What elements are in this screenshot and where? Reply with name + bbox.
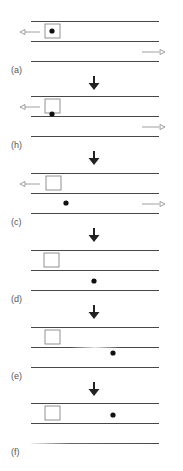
down-arrow-shaft <box>93 228 95 236</box>
channel-line <box>31 61 159 62</box>
panel-label: (c) <box>11 217 22 227</box>
panel-label: (h) <box>11 140 22 150</box>
dot-particle <box>49 28 54 33</box>
down-arrow-shaft <box>93 151 95 159</box>
channel-line <box>31 41 159 42</box>
panel-label: (e) <box>11 371 22 381</box>
channel-line <box>31 136 159 137</box>
dot-particle <box>91 278 96 283</box>
dot-particle <box>63 200 68 205</box>
down-arrow-shaft <box>93 76 95 84</box>
dot-particle <box>110 412 115 417</box>
left-arrow-icon <box>20 105 25 110</box>
down-arrow-icon <box>89 312 100 319</box>
channel-line <box>31 290 159 291</box>
channel-line <box>31 347 159 348</box>
channel-line <box>31 327 159 328</box>
left-arrow-icon <box>20 182 25 187</box>
panel-label: (f) <box>11 447 20 457</box>
channel-line <box>31 250 159 251</box>
right-arrow-icon <box>160 202 165 207</box>
down-arrow-icon <box>89 158 100 165</box>
channel-line <box>31 367 159 368</box>
channel-line <box>31 443 159 444</box>
left-arrow-icon <box>20 30 25 35</box>
square-marker <box>44 253 59 267</box>
channel-line <box>31 270 159 271</box>
diagram-canvas <box>0 0 183 471</box>
down-arrow-shaft <box>93 382 95 390</box>
right-arrow-icon <box>160 50 165 55</box>
square-marker <box>45 330 60 344</box>
square-marker <box>45 406 60 420</box>
channel-line <box>31 213 159 214</box>
dot-particle <box>49 111 54 116</box>
down-arrow-icon <box>89 389 100 396</box>
channel-line <box>31 21 159 22</box>
panel-label: (a) <box>11 65 22 75</box>
channel-line <box>31 116 159 117</box>
square-marker <box>45 99 60 113</box>
channel-line <box>31 423 159 424</box>
channel-line <box>31 96 159 97</box>
channel-line <box>31 173 159 174</box>
channel-line <box>31 403 159 404</box>
down-arrow-icon <box>89 235 100 242</box>
panel-label: (d) <box>11 294 22 304</box>
square-marker <box>46 176 61 190</box>
down-arrow-shaft <box>93 305 95 313</box>
channel-line <box>31 193 159 194</box>
dot-particle <box>110 350 115 355</box>
right-arrow-icon <box>160 125 165 130</box>
down-arrow-icon <box>89 83 100 90</box>
